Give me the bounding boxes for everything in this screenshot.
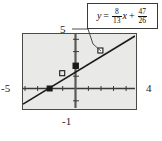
slope-numerator: 8 [114, 8, 120, 16]
plot-canvas [23, 34, 135, 108]
data-point-filled-2 [73, 63, 78, 68]
slope-denominator: 13 [112, 16, 122, 25]
window-xmax-label: 4 [146, 83, 152, 94]
intercept-fraction: 47 26 [138, 8, 148, 24]
equation-equals: = [103, 11, 109, 21]
equation-callout-box: y = 8 13 x + 47 26 [87, 3, 158, 29]
data-point-open-1 [60, 71, 65, 76]
window-ymax-label: 5 [60, 24, 66, 35]
data-point-filled-1 [47, 86, 52, 91]
window-ymin-label: -1 [62, 116, 71, 127]
data-point-open-2 [98, 48, 103, 53]
figure-root: -5 4 5 -1 y = 8 13 x + 47 26 [0, 0, 162, 141]
equation-plus: + [129, 11, 135, 21]
calculator-plot-window [22, 33, 137, 110]
regression-line [23, 36, 135, 104]
slope-fraction: 8 13 [112, 8, 122, 24]
equation-variable: x [123, 11, 127, 21]
equation-expression: y = 8 13 x + 47 26 [97, 8, 148, 24]
intercept-denominator: 26 [138, 16, 148, 25]
equation-lhs: y [97, 11, 101, 21]
window-xmin-label: -5 [1, 83, 10, 94]
intercept-numerator: 47 [138, 8, 148, 16]
